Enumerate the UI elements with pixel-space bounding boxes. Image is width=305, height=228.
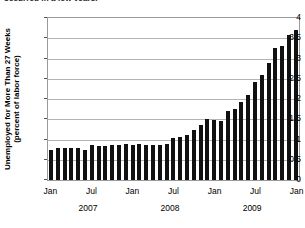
bar bbox=[144, 145, 148, 180]
bar bbox=[49, 150, 53, 180]
bar bbox=[110, 145, 114, 180]
bar bbox=[76, 148, 80, 180]
y-tick-label: 0 bbox=[261, 175, 305, 183]
bar bbox=[260, 75, 264, 180]
clipped-headline: occurred in a few years. bbox=[4, 0, 98, 1]
y-tick-label: 4 bbox=[261, 13, 305, 21]
y-tick-mark bbox=[44, 159, 47, 160]
y-tick-mark bbox=[44, 118, 47, 119]
bar bbox=[171, 138, 175, 180]
bar bbox=[226, 111, 230, 180]
x-tick-label: Jan bbox=[200, 186, 230, 196]
bar bbox=[83, 150, 87, 180]
y-tick-label: 0.5 bbox=[261, 155, 305, 163]
bar bbox=[233, 109, 237, 180]
bar bbox=[178, 137, 182, 180]
bar bbox=[131, 145, 135, 180]
bar bbox=[212, 120, 216, 180]
x-axis-year-label: 2008 bbox=[150, 203, 190, 213]
y-tick-label: 1.5 bbox=[261, 114, 305, 122]
bar bbox=[124, 144, 128, 180]
y-tick-label: 3 bbox=[261, 54, 305, 62]
y-axis-title-line2: (percent of labor force) bbox=[12, 55, 22, 143]
x-axis-year-label: 2007 bbox=[68, 203, 108, 213]
x-tick-label: Jul bbox=[159, 186, 189, 196]
bar bbox=[137, 144, 141, 180]
y-tick-mark bbox=[44, 37, 47, 38]
bar bbox=[56, 148, 60, 180]
y-axis-title-line1: Unemployed for More Than 27 Weeks bbox=[2, 28, 12, 170]
y-tick-mark bbox=[44, 179, 47, 180]
y-tick-label: 3.5 bbox=[261, 33, 305, 41]
bar bbox=[239, 102, 243, 180]
y-tick-mark bbox=[44, 98, 47, 99]
bar bbox=[151, 145, 155, 180]
bar bbox=[219, 121, 223, 180]
bar bbox=[97, 146, 101, 180]
bar bbox=[185, 135, 189, 180]
y-tick-mark bbox=[44, 139, 47, 140]
bar bbox=[246, 95, 250, 180]
bar bbox=[69, 148, 73, 180]
bar bbox=[103, 146, 107, 180]
y-tick-mark bbox=[44, 17, 47, 18]
y-tick-mark bbox=[44, 78, 47, 79]
bar bbox=[253, 82, 257, 180]
x-tick-label: Jan bbox=[282, 186, 305, 196]
y-axis-title: Unemployed for More Than 27 Weeks (perce… bbox=[0, 17, 22, 182]
bar bbox=[199, 125, 203, 180]
y-tick-label: 2.5 bbox=[261, 74, 305, 82]
bar bbox=[158, 145, 162, 180]
bar bbox=[90, 145, 94, 180]
x-tick-label: Jul bbox=[76, 186, 106, 196]
x-tick-label: Jan bbox=[35, 186, 65, 196]
y-tick-label: 2 bbox=[261, 94, 305, 102]
x-tick-label: Jul bbox=[241, 186, 271, 196]
bar bbox=[192, 130, 196, 180]
chart-figure: occurred in a few years. Unemployed for … bbox=[0, 0, 305, 228]
x-axis-year-label: 2009 bbox=[232, 203, 272, 213]
bar bbox=[205, 119, 209, 180]
y-tick-label: 1 bbox=[261, 135, 305, 143]
bar bbox=[165, 144, 169, 180]
x-tick-label: Jan bbox=[117, 186, 147, 196]
bar bbox=[63, 148, 67, 180]
bar bbox=[117, 145, 121, 180]
y-tick-mark bbox=[44, 58, 47, 59]
